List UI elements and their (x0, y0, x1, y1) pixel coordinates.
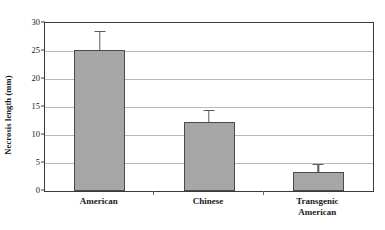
error-bar-cap (313, 164, 324, 165)
x-axis-category-label-line: American (44, 196, 153, 207)
error-bar-cap (204, 110, 215, 111)
bar (293, 172, 344, 191)
y-axis-tick-label: 5 (20, 158, 40, 167)
y-axis-tick-label: 0 (20, 186, 40, 195)
y-axis-title: Necrosis length (mm) (0, 0, 16, 230)
x-axis-category-label-line: American (263, 207, 372, 218)
y-axis-tick-label: 10 (20, 130, 40, 139)
error-bar-stem (99, 31, 100, 51)
x-axis-category-label-line: Transgenic (263, 196, 372, 207)
bar (74, 50, 125, 191)
y-axis-tick-label: 25 (20, 46, 40, 55)
x-axis-tick-mark (153, 191, 154, 195)
y-axis-tick-labels: 051015202530 (20, 0, 40, 230)
error-bar-stem (208, 110, 209, 122)
x-axis-category-label: TransgenicAmerican (263, 196, 372, 218)
y-axis-tick-label: 20 (20, 74, 40, 83)
bar-chart-figure: Necrosis length (mm) 051015202530 Americ… (0, 0, 385, 230)
bar (184, 122, 235, 191)
plot-area (44, 22, 374, 192)
x-axis-tick-mark (263, 191, 264, 195)
y-axis-tick-label: 15 (20, 102, 40, 111)
x-axis-category-label: Chinese (153, 196, 262, 207)
y-axis-tick-label: 30 (20, 18, 40, 27)
x-axis-category-label: American (44, 196, 153, 207)
error-bar-cap (94, 31, 105, 32)
x-axis-category-label-line: Chinese (153, 196, 262, 207)
